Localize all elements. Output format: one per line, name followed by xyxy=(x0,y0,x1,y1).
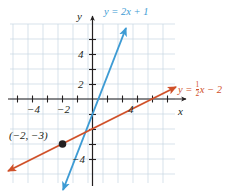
equation-red-suffix: x − 2 xyxy=(200,84,222,95)
y-tick-label-minus4: −4 xyxy=(72,154,85,165)
line-blue-2x-plus-1 xyxy=(63,28,126,190)
y-tick-label-2: 2 xyxy=(78,79,84,90)
x-tick-label-minus2: −2 xyxy=(57,104,70,115)
equation-label-blue: y = 2x + 1 xyxy=(104,7,149,18)
x-tick-label-4: 4 xyxy=(128,104,134,115)
equation-red-prefix: y = xyxy=(178,84,195,95)
fraction-one-half: 12 xyxy=(196,81,200,97)
x-axis-label: x xyxy=(178,106,183,117)
intersection-point-marker xyxy=(59,140,67,148)
equation-label-red: y = 12x − 2 xyxy=(178,81,222,97)
point-label-minus2-minus3: (−2, −3) xyxy=(9,130,48,141)
coordinate-plane-figure: y x y = 2x + 1 y = 12x − 2 (−2, −3) −4 −… xyxy=(0,0,245,196)
fraction-denominator: 2 xyxy=(196,89,200,98)
x-tick-label-minus4: −4 xyxy=(27,104,40,115)
y-tick-label-4: 4 xyxy=(78,49,84,60)
y-axis-label: y xyxy=(77,11,82,22)
fraction-numerator: 1 xyxy=(196,81,200,89)
graph-svg xyxy=(0,0,245,196)
